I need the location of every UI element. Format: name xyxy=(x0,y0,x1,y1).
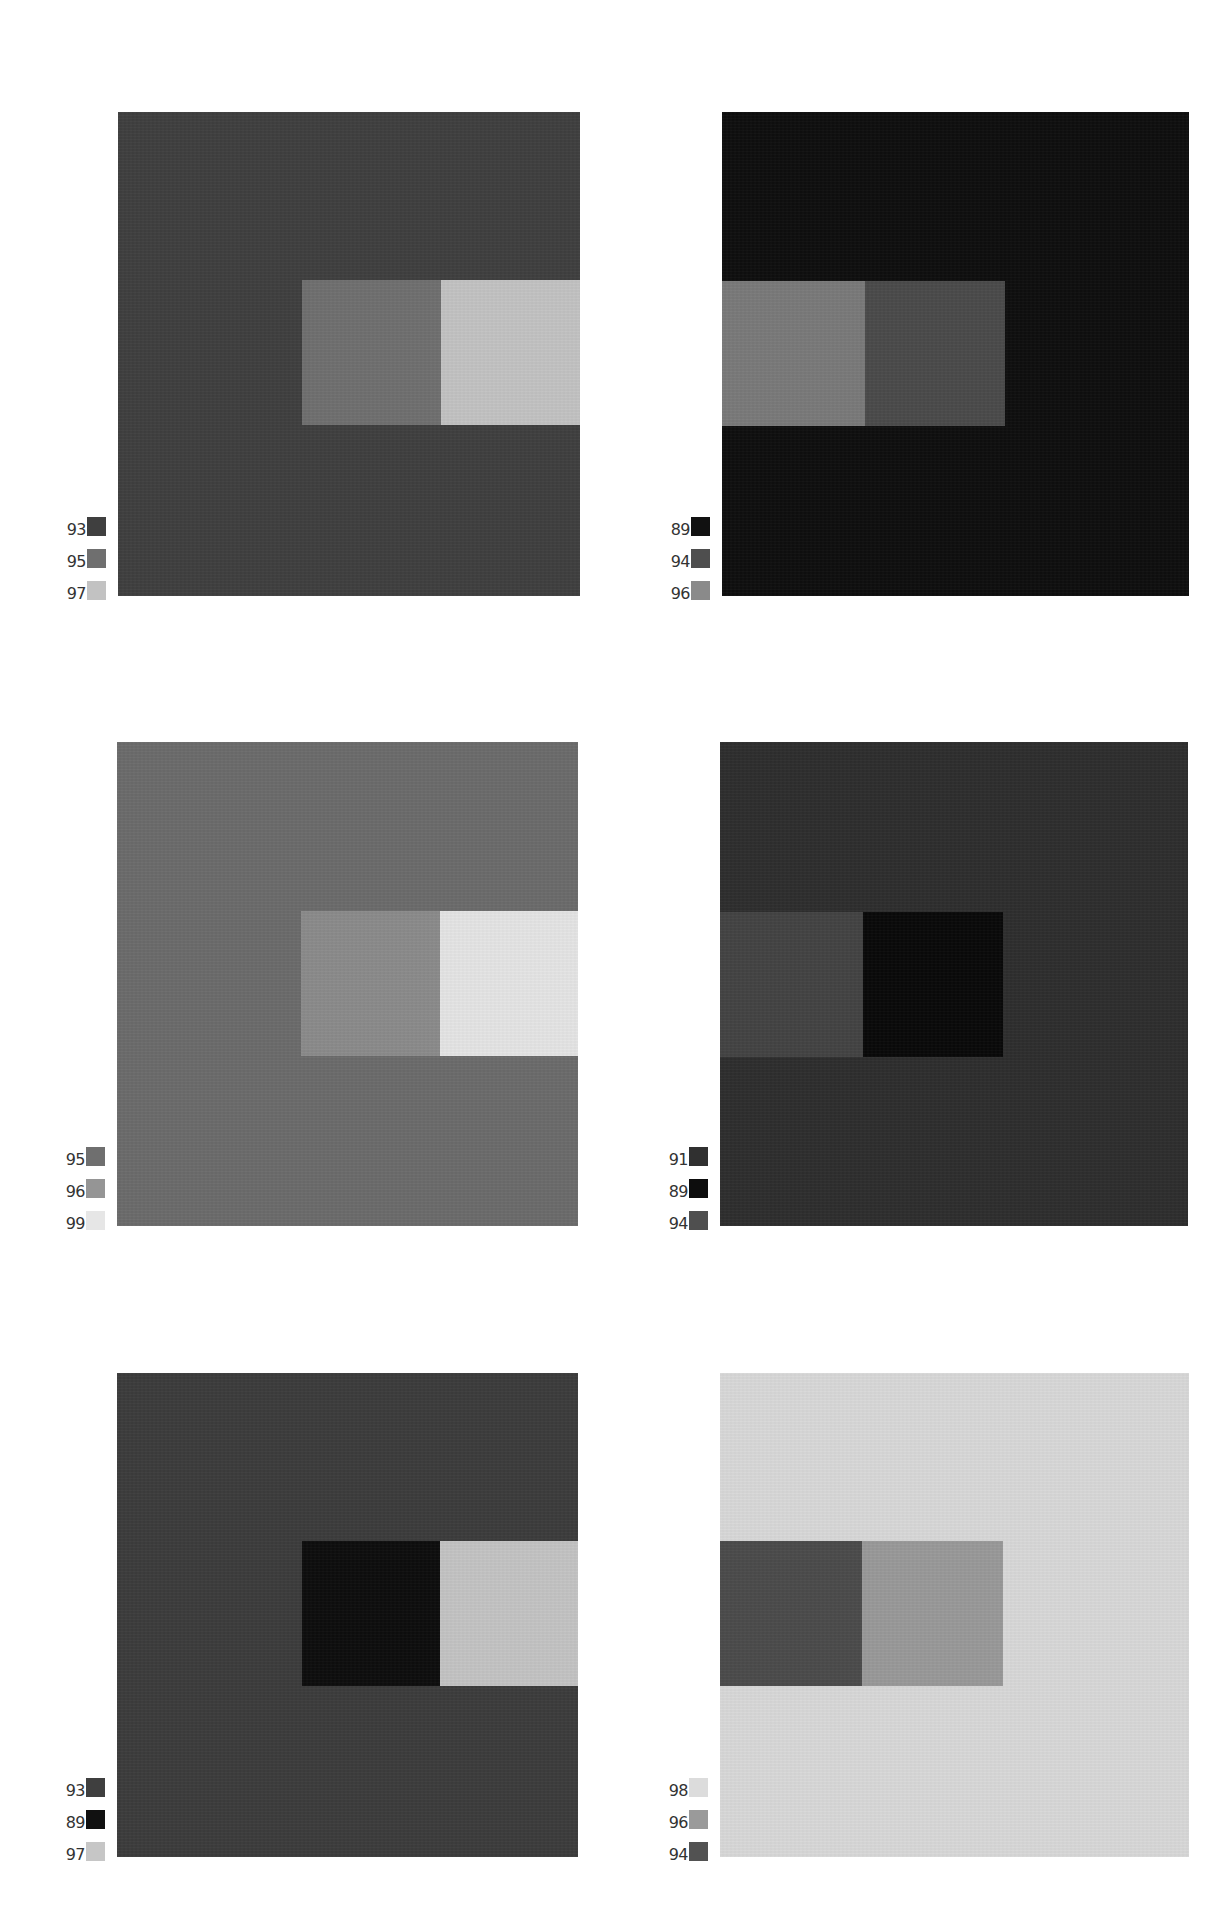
key-color-swatch xyxy=(86,1810,105,1829)
key-color-swatch xyxy=(689,1842,708,1861)
key-color-swatch xyxy=(87,581,106,600)
key-number-label: 94 xyxy=(669,1216,688,1232)
key-color-swatch xyxy=(86,1179,105,1198)
right-inner-rectangle xyxy=(441,280,580,425)
key-color-swatch xyxy=(86,1211,105,1230)
key-color-swatch xyxy=(689,1211,708,1230)
key-entry: 94 xyxy=(669,1839,708,1861)
key-number-label: 91 xyxy=(669,1152,688,1168)
key-number-label: 89 xyxy=(671,522,690,538)
color-key-legend: 899496 xyxy=(650,506,710,596)
right-inner-rectangle xyxy=(862,1541,1003,1686)
key-entry: 91 xyxy=(669,1144,708,1166)
left-inner-rectangle xyxy=(301,911,440,1056)
key-number-label: 96 xyxy=(669,1815,688,1831)
key-entry: 93 xyxy=(66,1775,105,1797)
key-color-swatch xyxy=(691,581,710,600)
key-entry: 97 xyxy=(66,1839,105,1861)
right-inner-rectangle xyxy=(863,912,1003,1057)
key-color-swatch xyxy=(691,549,710,568)
key-color-swatch xyxy=(86,1842,105,1861)
left-inner-rectangle xyxy=(720,1541,862,1686)
key-entry: 98 xyxy=(669,1775,708,1797)
left-inner-rectangle xyxy=(720,912,863,1057)
key-number-label: 98 xyxy=(669,1783,688,1799)
key-entry: 94 xyxy=(669,1208,708,1230)
key-number-label: 93 xyxy=(66,1783,85,1799)
key-color-swatch xyxy=(86,1778,105,1797)
key-color-swatch xyxy=(689,1179,708,1198)
key-number-label: 96 xyxy=(671,586,690,602)
key-number-label: 95 xyxy=(66,1152,85,1168)
key-number-label: 89 xyxy=(66,1815,85,1831)
key-number-label: 96 xyxy=(66,1184,85,1200)
key-color-swatch xyxy=(87,517,106,536)
key-number-label: 89 xyxy=(669,1184,688,1200)
key-entry: 96 xyxy=(66,1176,105,1198)
key-entry: 99 xyxy=(66,1208,105,1230)
color-key-legend: 918994 xyxy=(648,1136,708,1226)
color-key-legend: 939597 xyxy=(46,506,106,596)
right-inner-rectangle xyxy=(440,911,578,1056)
key-number-label: 94 xyxy=(669,1847,688,1863)
key-entry: 95 xyxy=(66,1144,105,1166)
key-color-swatch xyxy=(689,1810,708,1829)
key-entry: 89 xyxy=(669,1176,708,1198)
left-inner-rectangle xyxy=(302,280,441,425)
key-color-swatch xyxy=(689,1778,708,1797)
left-inner-rectangle xyxy=(722,281,865,426)
key-color-swatch xyxy=(691,517,710,536)
key-entry: 89 xyxy=(66,1807,105,1829)
key-entry: 93 xyxy=(67,514,106,536)
key-number-label: 97 xyxy=(66,1847,85,1863)
key-entry: 96 xyxy=(669,1807,708,1829)
key-entry: 96 xyxy=(671,578,710,600)
key-number-label: 99 xyxy=(66,1216,85,1232)
key-number-label: 97 xyxy=(67,586,86,602)
color-key-legend: 959699 xyxy=(45,1136,105,1226)
key-entry: 95 xyxy=(67,546,106,568)
key-number-label: 95 xyxy=(67,554,86,570)
key-entry: 97 xyxy=(67,578,106,600)
key-color-swatch xyxy=(689,1147,708,1166)
right-inner-rectangle xyxy=(865,281,1005,426)
key-entry: 89 xyxy=(671,514,710,536)
left-inner-rectangle xyxy=(302,1541,440,1686)
key-color-swatch xyxy=(86,1147,105,1166)
key-number-label: 93 xyxy=(67,522,86,538)
key-number-label: 94 xyxy=(671,554,690,570)
color-key-legend: 989694 xyxy=(648,1767,708,1857)
right-inner-rectangle xyxy=(440,1541,578,1686)
key-entry: 94 xyxy=(671,546,710,568)
key-color-swatch xyxy=(87,549,106,568)
color-key-legend: 938997 xyxy=(45,1767,105,1857)
